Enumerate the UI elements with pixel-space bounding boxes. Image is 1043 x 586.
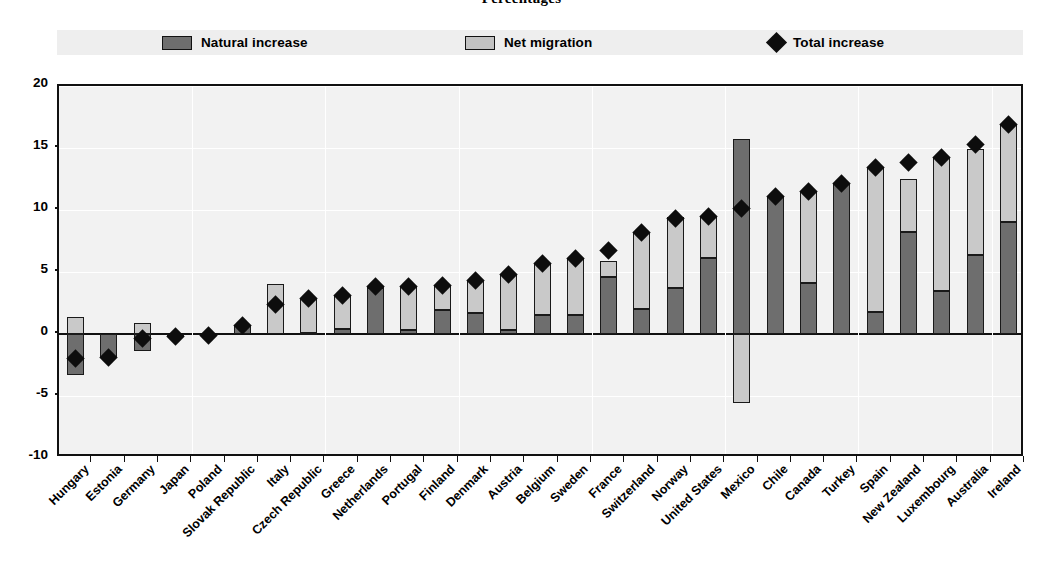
y-axis-tick-label: 10 <box>2 199 48 214</box>
total-increase-marker <box>166 327 184 345</box>
plot-area <box>57 84 1023 456</box>
bar-net-migration <box>67 317 84 334</box>
x-axis-tick-mark <box>890 456 891 462</box>
chart-root: Percentages Natural increase Net migrati… <box>0 0 1043 586</box>
plot-inner <box>59 86 1021 454</box>
x-axis-tick-mark <box>190 456 191 462</box>
x-axis-tick-mark <box>457 456 458 462</box>
legend-item-natural-increase: Natural increase <box>162 30 308 55</box>
bar-net-migration <box>667 217 684 288</box>
bar-net-migration <box>900 179 917 232</box>
legend-label-total-increase: Total increase <box>793 35 884 50</box>
x-axis-tick-mark <box>790 456 791 462</box>
bar-natural-increase <box>933 291 950 334</box>
gridline-vertical <box>592 86 593 454</box>
bar-natural-increase <box>567 315 584 334</box>
gridline-vertical <box>459 86 460 454</box>
legend-item-total-increase: Total increase <box>769 30 884 55</box>
x-axis-tick-mark <box>323 456 324 462</box>
bar-natural-increase <box>733 139 750 334</box>
bar-natural-increase <box>700 258 717 334</box>
total-increase-marker <box>899 154 917 172</box>
x-axis-tick-mark <box>990 456 991 462</box>
bar-net-migration <box>867 168 884 312</box>
bar-net-migration <box>1000 124 1017 222</box>
legend-marker-diamond-icon <box>766 32 787 53</box>
y-axis-tick-label: 15 <box>2 137 48 152</box>
x-axis-tick-mark <box>390 456 391 462</box>
gridline <box>59 396 1021 397</box>
x-axis-tick-mark <box>90 456 91 462</box>
x-axis-tick-mark <box>523 456 524 462</box>
x-axis-tick-mark <box>224 456 225 462</box>
gridline-vertical <box>192 86 193 454</box>
bar-natural-increase <box>300 333 317 335</box>
x-axis-tick-mark <box>823 456 824 462</box>
x-axis-tick-mark <box>423 456 424 462</box>
x-axis-tick-mark <box>757 456 758 462</box>
y-axis-tick-label: 5 <box>2 261 48 276</box>
bar-natural-increase <box>400 330 417 334</box>
bar-natural-increase <box>334 329 351 334</box>
bar-net-migration <box>933 158 950 291</box>
y-axis-tick-label: 20 <box>2 75 48 90</box>
bar-net-migration <box>967 149 984 254</box>
gridline-vertical <box>325 86 326 454</box>
legend-swatch-net-migration <box>465 36 495 50</box>
bar-natural-increase <box>767 196 784 334</box>
y-axis-tick-label: 0 <box>2 323 48 338</box>
x-axis-tick-mark <box>657 456 658 462</box>
x-axis-tick-mark <box>357 456 358 462</box>
y-axis-tick-label: -5 <box>2 385 48 400</box>
bar-net-migration <box>800 191 817 283</box>
bar-net-migration <box>733 334 750 403</box>
gridline-vertical <box>725 86 726 454</box>
bar-natural-increase <box>1000 222 1017 334</box>
x-axis-tick-mark <box>257 456 258 462</box>
gridline-vertical <box>992 86 993 454</box>
total-increase-marker <box>599 242 617 260</box>
legend-item-net-migration: Net migration <box>465 30 592 55</box>
bar-natural-increase <box>867 312 884 334</box>
bar-natural-increase <box>667 288 684 334</box>
bar-natural-increase <box>600 277 617 334</box>
x-axis-tick-mark <box>623 456 624 462</box>
x-axis-tick-mark <box>1023 456 1024 462</box>
x-axis-tick-mark <box>124 456 125 462</box>
legend-label-natural-increase: Natural increase <box>201 35 308 50</box>
bar-natural-increase <box>900 232 917 334</box>
gridline-vertical <box>858 86 859 454</box>
chart-title: Percentages <box>0 0 1043 7</box>
bar-natural-increase <box>633 309 650 334</box>
x-axis-tick-mark <box>690 456 691 462</box>
x-axis-tick-mark <box>956 456 957 462</box>
bar-natural-increase <box>967 255 984 334</box>
x-axis-tick-mark <box>723 456 724 462</box>
legend-label-net-migration: Net migration <box>504 35 592 50</box>
bar-net-migration <box>600 261 617 277</box>
bar-natural-increase <box>467 313 484 334</box>
total-increase-marker <box>200 326 218 344</box>
chart-legend: Natural increase Net migration Total inc… <box>57 30 1023 55</box>
x-axis-tick-mark <box>290 456 291 462</box>
x-axis-tick-mark <box>590 456 591 462</box>
bar-natural-increase <box>500 330 517 334</box>
bar-natural-increase <box>800 283 817 334</box>
x-axis-tick-mark <box>557 456 558 462</box>
bar-natural-increase <box>534 315 551 334</box>
gridline <box>59 148 1021 149</box>
bar-natural-increase <box>434 310 451 334</box>
gridline <box>59 86 1021 87</box>
x-axis-labels: HungaryEstoniaGermanyJapanPolandSlovak R… <box>0 458 1043 586</box>
bar-natural-increase <box>833 184 850 334</box>
x-axis-tick-mark <box>490 456 491 462</box>
bar-net-migration <box>633 232 650 309</box>
x-axis-tick-mark <box>923 456 924 462</box>
x-axis-tick-mark <box>856 456 857 462</box>
x-axis-tick-mark <box>157 456 158 462</box>
legend-swatch-natural-increase <box>162 36 192 50</box>
